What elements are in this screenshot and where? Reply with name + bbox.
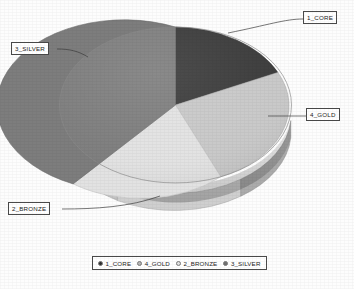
- callout-label-2-bronze[interactable]: 2_BRONZE: [8, 202, 50, 215]
- callout-label-3-silver[interactable]: 3_SILVER: [11, 42, 49, 55]
- legend-item-2-bronze[interactable]: 2_BRONZE: [176, 260, 217, 267]
- legend-label-2-bronze: 2_BRONZE: [184, 260, 218, 267]
- legend-swatch-icon-3-silver: [223, 261, 228, 266]
- legend-swatch-icon-2-bronze: [176, 261, 181, 266]
- legend-label-1-core: 1_CORE: [106, 260, 132, 267]
- legend-item-4-gold[interactable]: 4_GOLD: [137, 260, 170, 267]
- pie-top-sheen: [60, 27, 292, 183]
- legend-label-4-gold: 4_GOLD: [145, 260, 170, 267]
- legend-swatch-icon-1-core: [98, 261, 103, 266]
- legend-item-1-core[interactable]: 1_CORE: [98, 260, 131, 267]
- legend-swatch-icon-4-gold: [137, 261, 142, 266]
- chart-canvas: 1_CORE 3_SILVER 4_GOLD 2_BRONZE 1_CORE 4…: [0, 0, 354, 289]
- leader-line-core: [228, 19, 303, 33]
- chart-legend: 1_CORE 4_GOLD 2_BRONZE 3_SILVER: [92, 256, 267, 270]
- callout-label-1-core[interactable]: 1_CORE: [303, 11, 337, 24]
- callout-label-4-gold[interactable]: 4_GOLD: [306, 108, 340, 121]
- pie-chart-graphic: [0, 0, 354, 289]
- legend-item-3-silver[interactable]: 3_SILVER: [223, 260, 260, 267]
- legend-label-3-silver: 3_SILVER: [231, 260, 261, 267]
